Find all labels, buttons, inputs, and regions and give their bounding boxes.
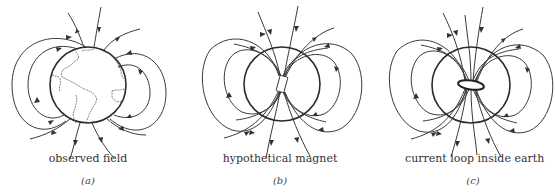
earth-outline <box>432 47 510 123</box>
label-b: (b) <box>265 175 295 186</box>
caption-c: current loop inside earth <box>405 152 540 165</box>
label-a: (a) <box>73 175 103 186</box>
panel-b-diagram <box>202 6 361 158</box>
panel-a-diagram <box>12 7 166 159</box>
caption-a: observed field <box>38 152 138 165</box>
earth-globe <box>50 47 126 123</box>
caption-b: hypothetical magnet <box>220 152 340 165</box>
panel-c-diagram <box>389 7 552 157</box>
current-loop-icon <box>458 79 485 92</box>
label-c: (c) <box>458 175 488 186</box>
magnetic-field-figure: observed field (a) hypothetical magnet (… <box>0 0 555 193</box>
bar-magnet-icon <box>276 75 288 93</box>
